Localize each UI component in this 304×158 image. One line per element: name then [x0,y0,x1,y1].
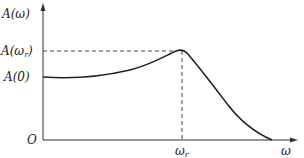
x-axis-arrow-icon [290,138,298,143]
peak-frequency-label-sub: r [185,150,189,158]
peak-level-label-close: ) [28,44,33,58]
peak-frequency-label-main: ω [175,144,185,158]
origin-label: O [27,134,37,146]
diagram-canvas [0,0,304,158]
y-axis-label: A(ω) [2,8,30,20]
y-axis-arrow-icon [41,3,46,11]
start-level-label: A(0) [4,71,30,83]
peak-frequency-label: ωr [175,145,189,158]
amplitude-frequency-diagram: A(ω) A(ωr) A(0) O ωr ω [0,0,304,158]
peak-level-label: A(ωr) [1,45,33,59]
amplitude-curve [43,50,272,140]
peak-level-label-main: A(ω [1,44,24,58]
x-axis-label: ω [281,145,291,157]
